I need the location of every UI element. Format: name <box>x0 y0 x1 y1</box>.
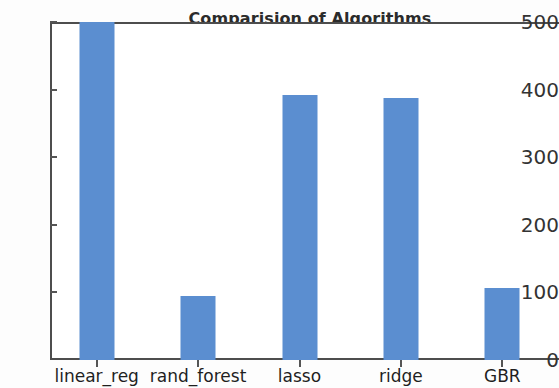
y-tick-label: 100 <box>515 280 559 304</box>
x-tick-label: linear_reg <box>54 366 138 386</box>
x-tick-label: lasso <box>278 366 321 386</box>
y-tick-mark <box>50 291 57 293</box>
y-tick-mark <box>50 156 57 158</box>
y-tick-label: 0 <box>515 348 559 372</box>
x-tick-label: ridge <box>379 366 423 386</box>
bar <box>282 95 317 360</box>
y-tick-label: 400 <box>515 78 559 102</box>
y-tick-label: 500 <box>515 10 559 34</box>
x-tick-label: GBR <box>484 366 521 386</box>
y-tick-label: 200 <box>515 213 559 237</box>
bar <box>383 98 418 360</box>
bar <box>79 22 114 360</box>
bar-chart: Comparision of Algorithms 01002003004005… <box>0 0 559 388</box>
y-tick-mark <box>50 21 57 23</box>
y-tick-mark <box>50 89 57 91</box>
x-tick-label: rand_forest <box>150 366 246 386</box>
y-tick-label: 300 <box>515 145 559 169</box>
bar <box>181 296 216 360</box>
y-tick-mark <box>50 224 57 226</box>
bar <box>485 288 520 360</box>
